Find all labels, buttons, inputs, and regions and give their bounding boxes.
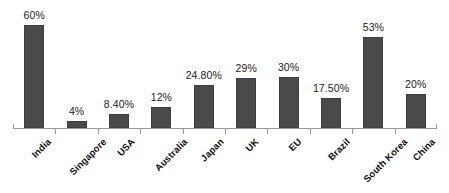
bar-group: 24.80% — [183, 8, 225, 128]
category-label-slot: Japan — [183, 136, 225, 193]
bar-group: 12% — [140, 8, 182, 128]
category-label-slot: Brazil — [310, 136, 352, 193]
bar-group: 20% — [395, 8, 437, 128]
category-label-slot: EU — [267, 136, 309, 193]
bar-value-label: 12% — [151, 91, 172, 103]
bar-value-label: 53% — [363, 21, 384, 33]
bar-value-label: 60% — [24, 9, 45, 21]
category-label-slot: Singapore — [55, 136, 97, 193]
plot-area: 60%4%8.40%12%24.80%29%30%17.50%53%20% — [13, 8, 437, 128]
x-axis-tick-labels: IndiaSingaporeUSAAustraliaJapanUKEUBrazi… — [13, 128, 437, 193]
bar-chart: 60%4%8.40%12%24.80%29%30%17.50%53%20% In… — [0, 0, 449, 193]
bar — [279, 77, 299, 129]
category-label-usa: USA — [115, 136, 137, 158]
bar-value-label: 17.50% — [313, 82, 349, 94]
category-label-slot: Australia — [140, 136, 182, 193]
bar-group: 17.50% — [310, 8, 352, 128]
category-label-slot: India — [13, 136, 55, 193]
bar-value-label: 24.80% — [186, 69, 222, 81]
bar-value-label: 4% — [69, 105, 84, 117]
bar — [406, 94, 426, 128]
category-label-china: China — [410, 136, 437, 163]
bar-group: 53% — [352, 8, 394, 128]
bar — [109, 114, 129, 128]
bar-group: 29% — [225, 8, 267, 128]
bar-value-label: 20% — [405, 78, 426, 90]
category-label-slot: South Korea — [352, 136, 394, 193]
category-label-uk: UK — [243, 136, 261, 154]
category-label-eu: EU — [286, 136, 303, 153]
bar-value-label: 29% — [236, 62, 257, 74]
bar-group: 30% — [267, 8, 309, 128]
bar — [24, 25, 44, 128]
bar — [151, 107, 171, 128]
bar-group: 60% — [13, 8, 55, 128]
category-label-slot: USA — [98, 136, 140, 193]
bar-group: 8.40% — [98, 8, 140, 128]
category-label-india: India — [29, 136, 53, 160]
bar-group: 4% — [55, 8, 97, 128]
category-label-brazil: Brazil — [325, 136, 352, 163]
bar-value-label: 8.40% — [104, 98, 134, 110]
bar — [321, 98, 341, 128]
category-label-slot: China — [395, 136, 437, 193]
bar — [194, 85, 214, 128]
category-label-slot: UK — [225, 136, 267, 193]
bar-value-label: 30% — [278, 61, 299, 73]
bar — [363, 37, 383, 128]
category-label-japan: Japan — [198, 136, 226, 164]
bar — [236, 78, 256, 128]
bar — [67, 121, 87, 128]
